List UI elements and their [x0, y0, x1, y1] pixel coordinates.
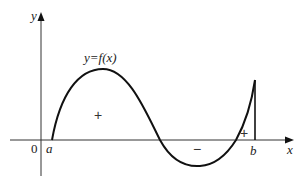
origin-label: 0 [31, 141, 38, 156]
negative-region-sign: − [193, 141, 201, 157]
b-label: b [250, 143, 257, 158]
y-axis-arrow-icon [38, 12, 45, 21]
y-axis-label: y [29, 8, 37, 23]
integral-diagram: y x 0 a b y=f(x) + − + [0, 0, 304, 193]
a-label: a [46, 141, 53, 156]
positive-region-sign: + [94, 107, 102, 123]
function-curve [52, 69, 255, 166]
curve-label: y=f(x) [82, 50, 117, 65]
positive-region-sign-near-b: + [240, 125, 248, 141]
x-axis-label: x [286, 142, 293, 157]
